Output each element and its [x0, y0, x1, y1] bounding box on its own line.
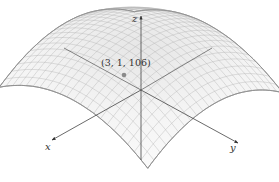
surface	[0, 9, 279, 168]
paraboloid-diagram: z x y (3, 1, 106)	[0, 0, 279, 182]
surface-point	[122, 73, 127, 78]
x-axis-label: x	[45, 141, 51, 152]
point-label: (3, 1, 106)	[101, 57, 151, 68]
y-axis-label: y	[229, 142, 236, 153]
z-axis-label: z	[131, 13, 138, 24]
